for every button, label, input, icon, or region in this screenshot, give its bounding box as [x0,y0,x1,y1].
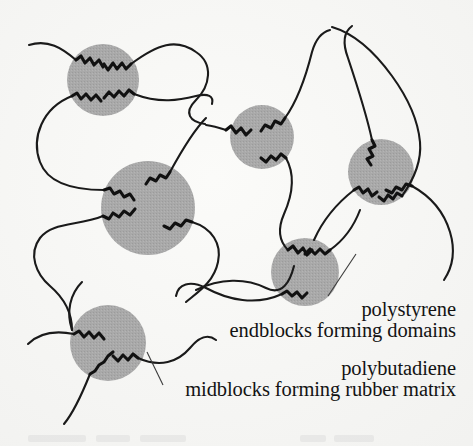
figure-canvas: polystyrene endblocks forming domains po… [0,0,473,446]
domain-top-left [67,44,139,116]
cropped-caption-remnant [0,430,473,446]
label-polystyrene-line2: endblocks forming domains [230,320,456,341]
domain-right-upper [348,139,414,205]
domain-center-left [101,161,195,255]
label-polystyrene: polystyrene endblocks forming domains [230,299,456,342]
domain-bottom-left [70,305,146,381]
label-polybutadiene-line2: midblocks forming rubber matrix [185,379,456,400]
label-polybutadiene-line1: polybutadiene [185,358,456,379]
label-polybutadiene: polybutadiene midblocks forming rubber m… [185,358,456,401]
label-polystyrene-line1: polystyrene [230,299,456,320]
